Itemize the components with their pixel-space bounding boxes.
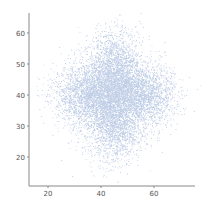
y-axis-ticks: 2030405060 [16,30,29,162]
x-tick-label: 20 [44,190,53,198]
x-axis-ticks: 204060 [44,186,159,198]
x-tick-label: 60 [150,190,159,198]
y-tick-label: 40 [16,92,25,100]
y-tick-label: 30 [16,123,25,131]
y-tick-label: 20 [16,154,25,162]
data-points [36,13,201,183]
scatter-chart: 2030405060 204060 [0,0,216,205]
y-tick-label: 50 [16,61,25,69]
y-tick-label: 60 [16,30,25,38]
x-tick-label: 40 [97,190,106,198]
scatter-points [36,13,201,183]
